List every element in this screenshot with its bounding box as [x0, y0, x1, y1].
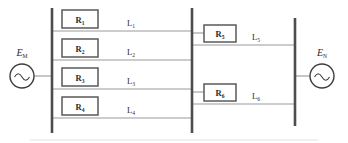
- line-label-2: L2: [127, 47, 135, 58]
- ac-source-m-group: EM: [10, 47, 34, 88]
- ac-source-n-group: EN: [310, 47, 334, 88]
- line-label-6: L6: [252, 91, 260, 102]
- diagram-canvas: R1 R2 R3 R4 R5 R6 L1 L2 L3 L4 L5 L6 EM E…: [0, 0, 348, 143]
- source-label-n: EN: [316, 47, 327, 59]
- relay-boxes-group: [62, 10, 236, 115]
- line-label-3: L3: [127, 76, 135, 87]
- line-label-4: L4: [127, 105, 135, 116]
- relay-stubs-group: [192, 33, 204, 92]
- source-label-m: EM: [15, 47, 27, 59]
- power-system-diagram: R1 R2 R3 R4 R5 R6 L1 L2 L3 L4 L5 L6 EM E…: [0, 0, 348, 143]
- line-label-1: L1: [127, 18, 135, 29]
- line-label-5: L5: [252, 32, 260, 43]
